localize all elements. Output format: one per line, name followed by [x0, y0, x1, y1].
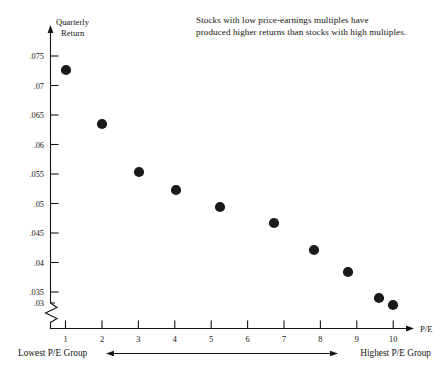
pe-range-arrow: [106, 351, 338, 356]
x-axis: [51, 326, 415, 332]
y-tick-label: .05: [34, 200, 44, 209]
x-tick-label: 3: [136, 335, 140, 344]
data-point: [215, 202, 225, 212]
highest-pe-group-label: Highest P/E Group: [360, 348, 431, 358]
y-axis-break-icon: [46, 303, 58, 329]
y-axis-ticks: [51, 56, 59, 303]
y-tick-label: .075: [29, 52, 44, 61]
x-tick-label: 8: [318, 335, 322, 344]
x-axis-ticks: [66, 321, 394, 329]
y-axis-tick-labels: .075 .07 .065 .06 .055 .05 .045 .04 .035…: [29, 52, 44, 308]
x-tick-label: 7: [282, 335, 286, 344]
pe-quarterly-return-chart: .075 .07 .065 .06 .055 .05 .045 .04 .035…: [0, 0, 441, 376]
x-tick-label: 2: [100, 335, 104, 344]
x-tick-label: 6: [246, 335, 250, 344]
y-axis-arrow-head: [48, 25, 54, 33]
data-point: [269, 218, 279, 228]
x-axis-tick-labels: 1 2 3 4 5 6 7 8 9 10: [63, 335, 397, 344]
caption-line-2: produced higher returns than stocks with…: [196, 27, 441, 39]
x-tick-label: 9: [355, 335, 359, 344]
x-axis-title: P/E: [420, 324, 432, 334]
lowest-pe-group-label: Lowest P/E Group: [18, 348, 87, 358]
x-axis-arrow-head: [406, 326, 414, 332]
data-point: [388, 300, 398, 310]
x-tick-label: 1: [63, 335, 67, 344]
caption-line-1: Stocks with low price-earnings multiples…: [196, 15, 441, 27]
data-point: [61, 65, 71, 75]
y-tick-label: .045: [29, 229, 44, 238]
data-point: [171, 185, 181, 195]
chart-caption: Stocks with low price-earnings multiples…: [196, 15, 441, 38]
y-axis-title-line1: Quarterly: [56, 17, 90, 27]
y-tick-label: .07: [34, 82, 44, 91]
y-tick-label: .06: [34, 141, 44, 150]
y-tick-label: .035: [29, 288, 44, 297]
range-arrow-head-right: [330, 351, 338, 356]
y-tick-label: .065: [29, 111, 44, 120]
data-point: [374, 293, 384, 303]
range-arrow-head-left: [106, 351, 114, 356]
data-point: [309, 245, 319, 255]
chart-plot-area: .075 .07 .065 .06 .055 .05 .045 .04 .035…: [0, 0, 441, 376]
data-point-series: [61, 65, 398, 310]
y-tick-label: .03: [34, 299, 44, 308]
data-point: [343, 267, 353, 277]
x-tick-label: 10: [389, 335, 397, 344]
data-point: [97, 119, 107, 129]
y-tick-label: .055: [29, 170, 44, 179]
y-axis: [48, 25, 54, 303]
y-axis-title: Quarterly Return: [56, 17, 90, 38]
y-axis-title-line2: Return: [61, 28, 85, 38]
y-tick-label: .04: [34, 259, 45, 268]
data-point: [134, 167, 144, 177]
x-tick-label: 4: [173, 335, 178, 344]
x-tick-label: 5: [209, 335, 213, 344]
